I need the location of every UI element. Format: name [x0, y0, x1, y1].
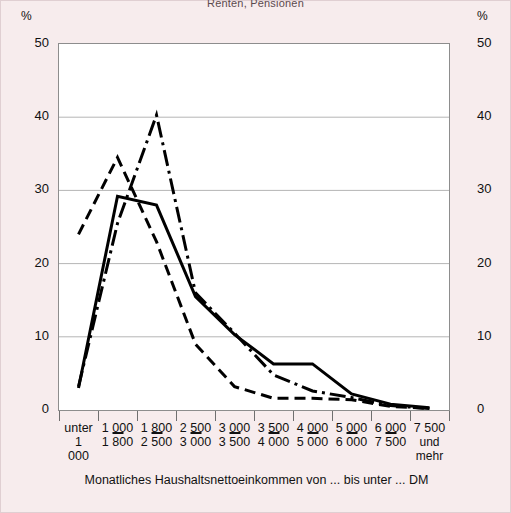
x-axis-tick [410, 411, 411, 421]
x-axis-category-label: 7 500undmehr [400, 421, 460, 463]
x-axis-tick [449, 411, 450, 421]
x-axis-tick [59, 411, 60, 421]
y-axis-tick-label: 30 [477, 181, 511, 196]
y-axis-tick-label: 50 [477, 35, 511, 50]
x-axis-tick [98, 411, 99, 421]
x-axis-tick [293, 411, 294, 421]
y-axis-tick-label: 0 [477, 401, 511, 416]
x-axis-tick [371, 411, 372, 421]
y-axis-tick-label: 10 [9, 328, 49, 343]
y-axis-tick-label: 50 [9, 35, 49, 50]
series-line-3 [79, 115, 430, 409]
y-axis-tick-label: 40 [477, 108, 511, 123]
x-axis-labels: unter10001 0001 8001 8002 5002 5003 0003… [1, 421, 511, 471]
chart-lines-svg [59, 44, 449, 410]
y-axis-unit-right: % [477, 9, 488, 23]
y-axis-tick-label: 0 [9, 401, 49, 416]
x-label-line-2: undmehr [400, 435, 460, 463]
x-axis-tick [176, 411, 177, 421]
series-line-1 [79, 196, 430, 408]
y-axis-tick-label: 30 [9, 181, 49, 196]
gridlines-group [59, 117, 449, 337]
plot-area [58, 43, 450, 411]
y-axis-unit-left: % [21, 9, 32, 23]
y-axis-tick-label: 20 [9, 255, 49, 270]
x-axis-tick [215, 411, 216, 421]
x-axis-tick [254, 411, 255, 421]
x-axis-tick [137, 411, 138, 421]
y-axis-tick-label: 40 [9, 108, 49, 123]
figure-frame: Renten, Pensionen % % 50403020100 504030… [0, 0, 511, 513]
x-label-line-1: 7 500 [400, 421, 460, 435]
chart-title: Renten, Pensionen [1, 0, 510, 9]
y-axis-tick-label: 10 [477, 328, 511, 343]
series-line-2 [79, 157, 430, 408]
x-axis-tick [332, 411, 333, 421]
x-axis-title: Monatliches Haushaltsnettoeinkommen von … [1, 473, 511, 487]
series-group [79, 115, 430, 409]
y-axis-tick-label: 20 [477, 255, 511, 270]
